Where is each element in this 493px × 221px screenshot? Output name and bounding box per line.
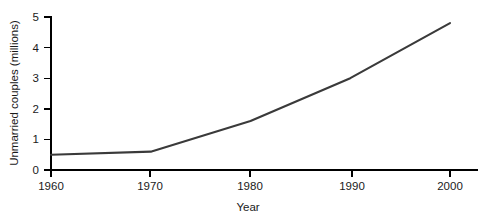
y-tick-label-4: 4 — [33, 42, 40, 54]
x-tick-label-2000: 2000 — [437, 180, 463, 192]
y-axis-title: Unmarried couples (millions) — [8, 20, 20, 166]
y-tick-label-3: 3 — [33, 72, 39, 84]
y-tick-label-0: 0 — [33, 164, 39, 176]
line-chart-figure: 5 4 3 2 1 0 1960 1970 1980 1990 2000 Yea… — [0, 0, 493, 221]
y-tick-label-5: 5 — [33, 11, 39, 23]
y-tick-label-2: 2 — [33, 103, 39, 115]
x-tick-label-1980: 1980 — [237, 180, 263, 192]
chart-canvas: 5 4 3 2 1 0 1960 1970 1980 1990 2000 Yea… — [0, 0, 493, 221]
x-tick-label-1990: 1990 — [339, 180, 365, 192]
x-axis-title: Year — [236, 201, 259, 213]
x-tick-label-1960: 1960 — [38, 180, 64, 192]
x-tick-label-1970: 1970 — [137, 180, 163, 192]
y-tick-label-1: 1 — [33, 133, 39, 145]
